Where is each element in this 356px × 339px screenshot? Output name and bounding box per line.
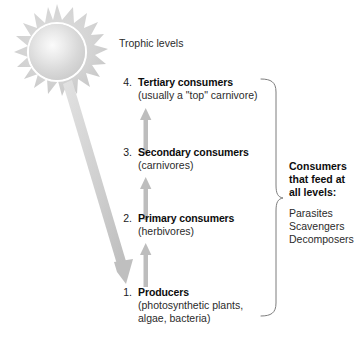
side-note-title-line2: that feed at — [289, 173, 345, 186]
level-title-secondary: Secondary consumers — [138, 147, 249, 158]
level-title-tertiary: Tertiary consumers — [138, 77, 233, 88]
level-subtitle-tertiary: (usually a "top" carnivore) — [138, 90, 258, 101]
level-subtitle-secondary: (carnivores) — [138, 160, 193, 171]
side-note-item-parasites: Parasites — [289, 207, 333, 220]
level-title-producers: Producers — [138, 287, 189, 298]
level-subtitle-producers-line1: (photosynthetic plants, — [138, 300, 243, 311]
side-note-title-line1: Consumers — [289, 160, 347, 173]
diagram-heading: Trophic levels — [119, 38, 183, 49]
level-number-1: 1. — [118, 287, 132, 298]
level-title-primary: Primary consumers — [138, 213, 234, 224]
level-subtitle-producers-line2: algae, bacteria) — [138, 313, 210, 324]
side-note-item-decomposers: Decomposers — [289, 233, 354, 246]
level-number-2: 2. — [118, 213, 132, 224]
level-number-4: 4. — [118, 77, 132, 88]
side-note-title-line3: all levels: — [289, 186, 336, 199]
side-note-item-scavengers: Scavengers — [289, 220, 344, 233]
labels-layer: Trophic levels 4. Tertiary consumers (us… — [0, 0, 356, 339]
level-number-3: 3. — [118, 147, 132, 158]
level-subtitle-primary: (herbivores) — [138, 226, 194, 237]
trophic-levels-diagram: Trophic levels 4. Tertiary consumers (us… — [0, 0, 356, 339]
